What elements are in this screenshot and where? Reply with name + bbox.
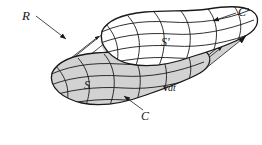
swept-surface-figure: R C′ S′ S C vdt (0, 0, 262, 145)
leader-region-R (36, 16, 66, 39)
displacement-label: vdt (163, 83, 176, 93)
region-label: R (22, 9, 30, 22)
surface-initial-label: S (84, 79, 90, 91)
time-differential-symbol: dt (168, 82, 176, 93)
curve-final-label: C′ (238, 6, 249, 18)
surface-Sprime-upper (94, 6, 258, 70)
figure-canvas (0, 0, 262, 145)
surface-final-label: S′ (161, 36, 170, 48)
curve-initial-label: C (141, 110, 149, 122)
